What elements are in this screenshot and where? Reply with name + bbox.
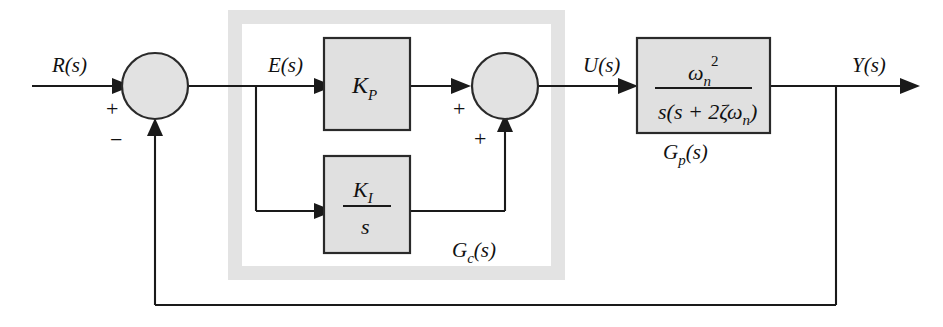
- arrowhead-plant-input: [618, 78, 638, 94]
- controller-group-label: Gc(s): [452, 238, 496, 266]
- error-junction-plus-sign: +: [106, 96, 118, 121]
- plant-denominator-label: s(s + 2ζωn): [658, 99, 757, 128]
- kp-subscript: P: [367, 87, 377, 103]
- control-junction-plus-sign-2: +: [474, 126, 486, 151]
- arrowhead-output: [900, 78, 920, 94]
- block-diagram-canvas: R(s) E(s) U(s) Y(s) + − + + KP KI s ωn2 …: [0, 0, 943, 327]
- arrowhead-feedback-into-sum1: [147, 118, 163, 136]
- output-signal-label: Y(s): [852, 53, 886, 77]
- arrowhead-sum2-input: [451, 78, 471, 94]
- plant-den-omega: ω: [727, 99, 743, 124]
- plant-omega: ω: [688, 60, 704, 85]
- integral-denominator-label: s: [361, 214, 370, 239]
- ki-base: K: [352, 177, 369, 202]
- plant-omega-subscript: n: [704, 73, 712, 89]
- error-junction-minus-sign: −: [110, 127, 122, 152]
- control-system-diagram: R(s) E(s) U(s) Y(s) + − + + KP KI s ωn2 …: [0, 0, 943, 327]
- plant-den-suffix: ): [748, 99, 757, 124]
- plant-den-omega-subscript: n: [743, 112, 751, 128]
- gc-suffix: (s): [474, 238, 496, 262]
- gc-base: G: [452, 238, 467, 262]
- plant-omega-superscript: 2: [711, 53, 719, 69]
- error-summing-junction: [122, 53, 188, 119]
- plant-den-prefix: s(s + 2: [658, 99, 719, 124]
- control-summing-junction: [472, 53, 538, 119]
- gp-base: G: [663, 140, 678, 164]
- reference-signal-label: R(s): [51, 53, 87, 77]
- ki-subscript: I: [367, 190, 374, 206]
- control-signal-label: U(s): [583, 53, 620, 77]
- plant-group-label: Gp(s): [663, 140, 708, 168]
- error-signal-label: E(s): [267, 53, 303, 77]
- gp-suffix: (s): [686, 140, 708, 164]
- control-junction-plus-sign-1: +: [453, 96, 465, 121]
